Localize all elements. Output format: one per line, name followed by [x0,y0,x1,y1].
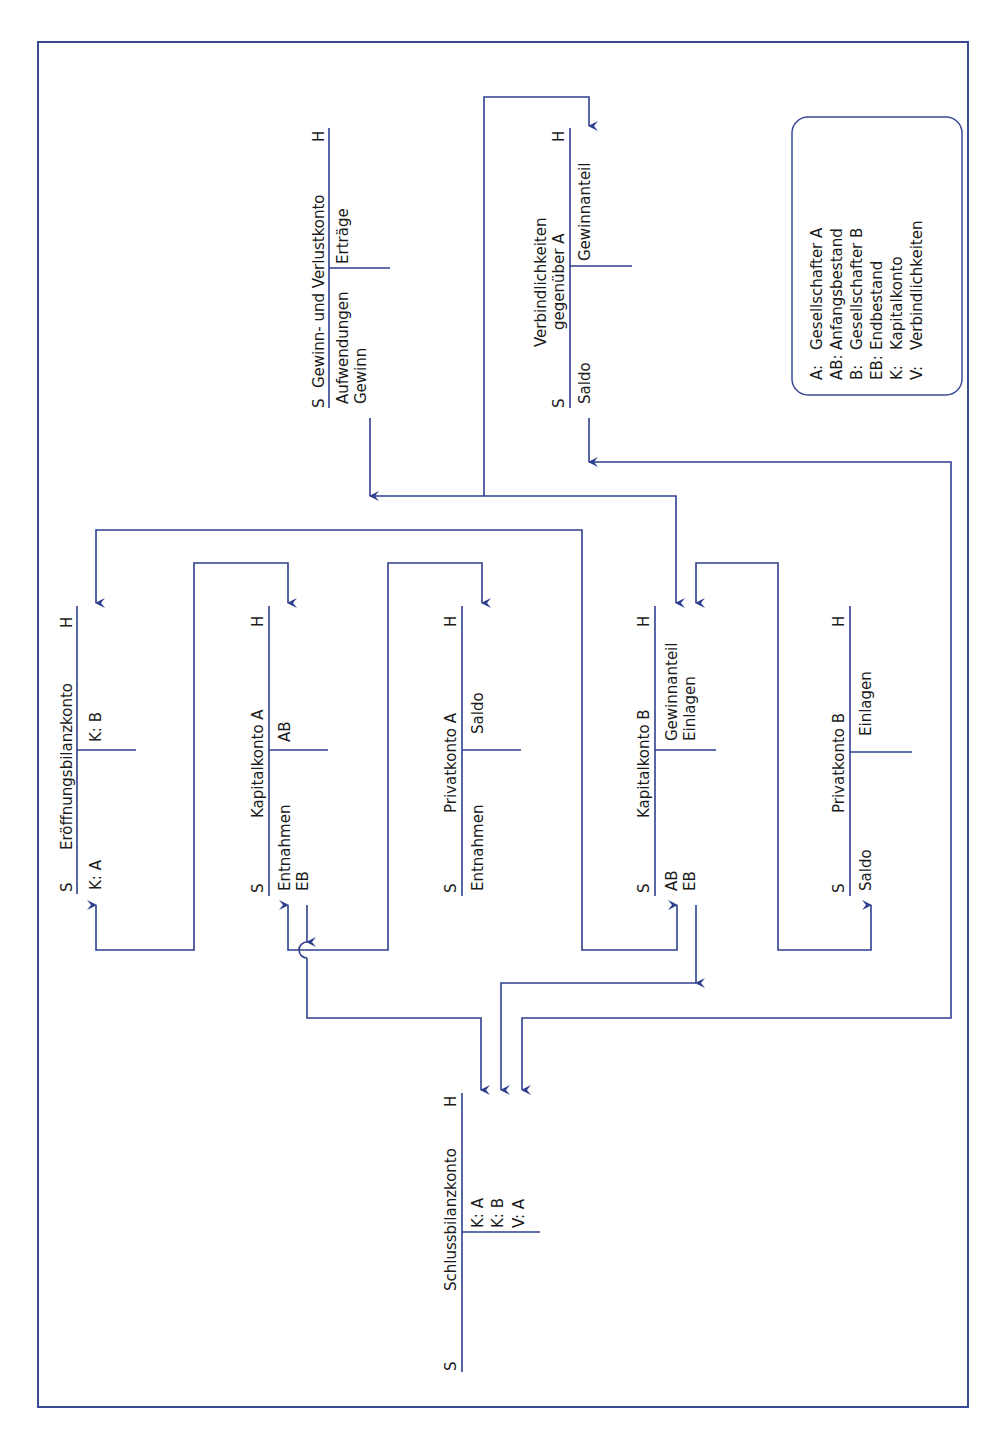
account-guv: S Gewinn- und Verlustkonto H Aufwendunge… [310,128,390,408]
side-h-label: H [58,617,76,628]
connector-kapital-b-to-schluss [501,983,696,1090]
side-h-label: H [635,616,653,627]
legend-meaning: Verbindlichkeiten [908,221,926,350]
soll-entry: Saldo [857,849,875,891]
side-h-label: H [830,616,848,627]
soll-entry: EB [294,871,312,891]
account-privatkonto-a: S Privatkonto A H Entnahmen Saldo [442,606,521,896]
account-title: Schlussbilanzkonto [442,1148,460,1291]
legend-abbr: AB: [828,354,846,380]
account-title-line1: Verbindlichkeiten [532,218,550,347]
account-privatkonto-b: S Privatkonto B H Saldo Einlagen [830,606,912,896]
legend-meaning: Gesellschafter B [848,228,866,350]
connector-guv-to-kapital-b [370,496,676,603]
haben-entry: Erträge [334,208,352,264]
soll-entry: Gewinn [352,348,370,404]
haben-entry: AB [276,721,294,742]
account-title: Eröffnungsbilanzkonto [58,683,76,850]
side-h-label: H [442,616,460,627]
account-eroeffnungsbilanz: S Eröffnungsbilanzkonto H K: A K: B [58,606,136,894]
side-s-label: S [58,882,76,892]
soll-entry: Entnahmen [276,805,294,891]
soll-entry: AB [663,870,681,891]
account-title: Gewinn- und Verlustkonto [310,194,328,388]
account-title: Kapitalkonto A [249,709,267,818]
haben-entry: K: A [469,1197,487,1228]
haben-entry: K: B [87,712,105,742]
account-kapitalkonto-b: S Kapitalkonto B H AB Gewinnanteil EB Ei… [635,606,716,896]
side-h-label: H [249,616,267,627]
legend-abbr: EB: [868,355,886,380]
haben-entry: Saldo [469,692,487,734]
legend-meaning: Kapitalkonto [888,256,906,350]
account-schlussbilanz: S Schlussbilanzkonto H K: A K: B V: A [442,1093,540,1372]
soll-entry: EB [681,871,699,891]
legend-abbr: V: [908,366,926,380]
soll-entry: Entnahmen [469,805,487,891]
side-s-label: S [550,398,568,408]
haben-entry: Gewinnanteil [663,643,681,741]
side-h-label: H [550,131,568,142]
haben-entry: Einlagen [681,676,699,741]
account-title: Privatkonto B [830,713,848,813]
haben-entry: Gewinnanteil [576,163,594,261]
t-account-flow-diagram: A: Gesellschafter A AB: Anfangsbestand B… [0,0,1003,1433]
legend-abbr: B: [848,365,866,380]
haben-entry: Einlagen [857,671,875,736]
haben-entry: K: B [489,1198,507,1228]
legend-meaning: Endbestand [868,261,886,350]
account-kapitalkonto-a: S Kapitalkonto A H Entnahmen AB EB [249,606,328,896]
legend-meaning: Anfangsbestand [828,228,846,350]
legend-abbr: K: [888,365,906,380]
legend: A: Gesellschafter A AB: Anfangsbestand B… [792,117,962,395]
side-s-label: S [249,883,267,893]
legend-abbr: A: [808,365,826,380]
side-s-label: S [442,1361,460,1371]
haben-entry: V: A [510,1198,528,1228]
soll-entry: Aufwendungen [334,291,352,404]
legend-meaning: Gesellschafter A [808,227,826,350]
side-s-label: S [830,883,848,893]
account-title: Kapitalkonto B [635,709,653,818]
account-title: Privatkonto A [442,712,460,813]
side-h-label: H [442,1096,460,1107]
diagram-canvas: A: Gesellschafter A AB: Anfangsbestand B… [0,0,1003,1433]
soll-entry: K: A [87,859,105,890]
connector-eroeffnung-kapital-b [96,530,677,950]
account-title-line2: gegenüber A [550,233,568,330]
connector-kapital-a-to-schluss [307,958,481,1090]
side-s-label: S [310,398,328,408]
side-h-label: H [310,131,328,142]
soll-entry: Saldo [576,362,594,404]
side-s-label: S [635,883,653,893]
connector-verbindlichkeiten-to-schluss [522,462,951,1090]
side-s-label: S [442,883,460,893]
account-verbindlichkeiten: S H Verbindlichkeiten gegenüber A Saldo … [532,128,632,408]
